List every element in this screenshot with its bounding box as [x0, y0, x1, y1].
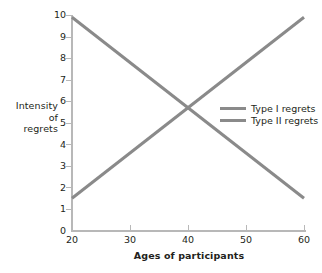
- legend-item-type-i: Type I regrets: [220, 103, 318, 114]
- plot-area: [0, 0, 322, 273]
- legend-swatch-icon-type-ii: [220, 119, 246, 122]
- legend-swatch-icon-type-i: [220, 107, 246, 110]
- legend-label-type-i: Type I regrets: [251, 104, 315, 114]
- chart-legend: Type I regrets Type II regrets: [220, 103, 318, 127]
- legend-label-type-ii: Type II regrets: [251, 116, 318, 126]
- x-axis-title: Ages of participants: [72, 250, 306, 261]
- regrets-line-chart: Intensity of regrets 10 9 8 7 6 5 4 3 2 …: [0, 0, 322, 273]
- legend-item-type-ii: Type II regrets: [220, 115, 318, 126]
